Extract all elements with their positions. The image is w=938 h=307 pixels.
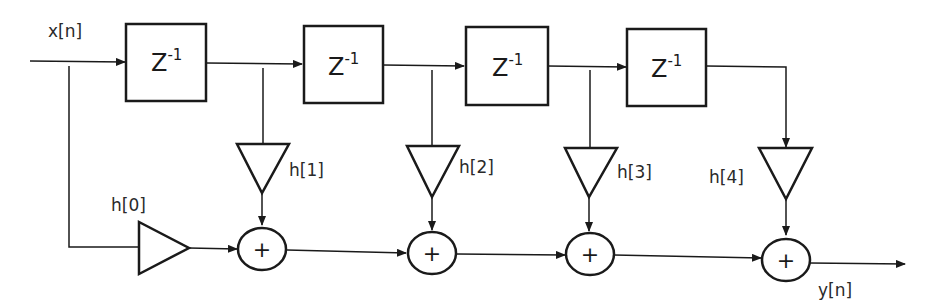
output-label: y[n]	[818, 280, 852, 300]
gain-h4-label: h[4]	[709, 167, 744, 187]
h0-to-adder1-line	[189, 248, 237, 249]
adder-1-symbol: +	[253, 237, 271, 262]
gain-h2-triangle	[407, 146, 459, 197]
output-signal-line	[810, 263, 905, 264]
fir-filter-diagram: Z-1 Z-1 Z-1 Z-1 + + + + x[n] y[n] h[0] h…	[0, 0, 938, 307]
gain-h1-label: h[1]	[289, 160, 324, 180]
input-signal-line	[30, 61, 125, 62]
gain-h3-triangle	[565, 148, 617, 197]
delay4-output-line	[706, 66, 786, 147]
adder-4-symbol: +	[777, 248, 795, 273]
adder-3-symbol: +	[581, 242, 599, 267]
gain-h2-label: h[2]	[459, 157, 494, 177]
gain-h0-triangle	[139, 222, 189, 274]
gain-h4-triangle	[759, 148, 812, 199]
adder2-to-adder3-line	[457, 254, 565, 255]
adder3-to-adder4-line	[614, 255, 761, 258]
gain-h0-label: h[0]	[111, 195, 146, 215]
delay2-to-delay3-line	[383, 65, 464, 66]
adder-2-symbol: +	[423, 241, 441, 266]
gain-h1-triangle	[237, 144, 289, 193]
input-label: x[n]	[48, 21, 82, 41]
gain-h3-label: h[3]	[617, 162, 652, 182]
delay1-to-delay2-line	[206, 63, 302, 64]
delay3-to-delay4-line	[548, 66, 626, 67]
adder1-to-adder2-line	[287, 250, 406, 253]
